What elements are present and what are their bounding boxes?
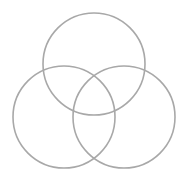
venn-circle-right bbox=[73, 66, 175, 168]
venn-circle-top bbox=[43, 13, 145, 115]
venn-circle-left bbox=[13, 66, 115, 168]
venn-diagram bbox=[0, 0, 184, 183]
